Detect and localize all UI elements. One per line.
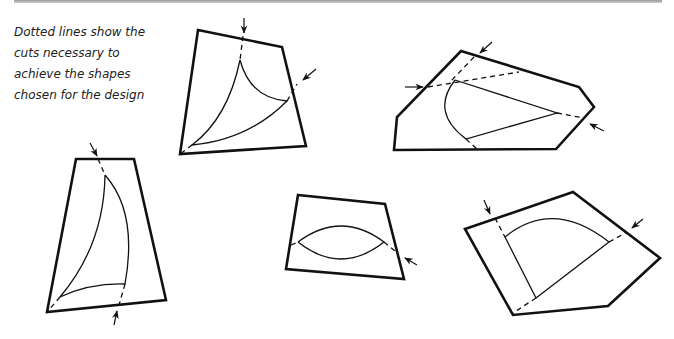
arrow-icon [590, 124, 604, 131]
arrow-icon [480, 42, 492, 53]
cut-diagram [0, 0, 674, 339]
piece-top-right [394, 42, 604, 150]
piece-top-middle [180, 18, 316, 154]
arrow-icon [90, 143, 97, 156]
arrow-icon [114, 311, 117, 325]
piece-bottom-middle [286, 195, 417, 279]
arrow-icon [484, 200, 490, 214]
piece-bottom-right [465, 192, 660, 315]
arrow-icon [632, 219, 643, 228]
arrow-icon [303, 69, 316, 80]
piece-bottom-left [47, 143, 166, 325]
arrow-icon [405, 258, 417, 265]
